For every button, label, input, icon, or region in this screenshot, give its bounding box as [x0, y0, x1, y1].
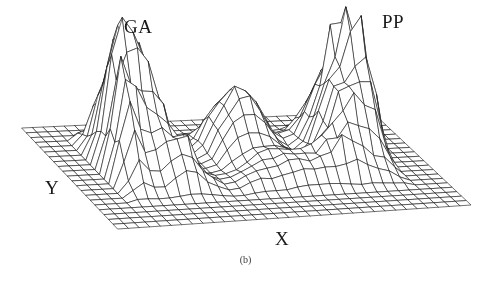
surface-plot-figure: GA PP Y X (b)	[0, 0, 491, 281]
axis-label-x: X	[275, 229, 289, 248]
peak-label-pp: PP	[382, 12, 404, 31]
axis-label-y: Y	[45, 178, 59, 197]
wireframe-surface-canvas	[0, 0, 491, 281]
figure-caption: (b)	[0, 254, 491, 265]
peak-label-ga: GA	[124, 17, 152, 36]
